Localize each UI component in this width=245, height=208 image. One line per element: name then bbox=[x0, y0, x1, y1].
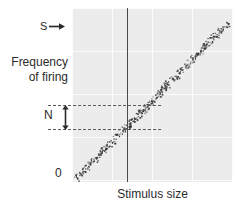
signal-annotation: S bbox=[40, 21, 65, 32]
x-axis-label: Stimulus size bbox=[72, 188, 233, 200]
neuronal-response-figure: N S Frequency of firing 0 Stimulus size bbox=[0, 0, 245, 208]
grid-lines bbox=[72, 8, 233, 182]
plot-area bbox=[72, 8, 233, 182]
signal-label: S bbox=[40, 21, 47, 32]
arrow-updown-icon bbox=[61, 105, 70, 130]
vertical-reference-line bbox=[127, 8, 128, 182]
y-axis-label-line1: Frequency bbox=[0, 55, 68, 70]
origin-label: 0 bbox=[55, 167, 62, 179]
y-axis-label-line2: of firing bbox=[0, 70, 68, 85]
y-axis-label: Frequency of firing bbox=[0, 55, 68, 85]
noise-label: N bbox=[44, 109, 53, 121]
arrow-right-icon bbox=[49, 22, 65, 31]
